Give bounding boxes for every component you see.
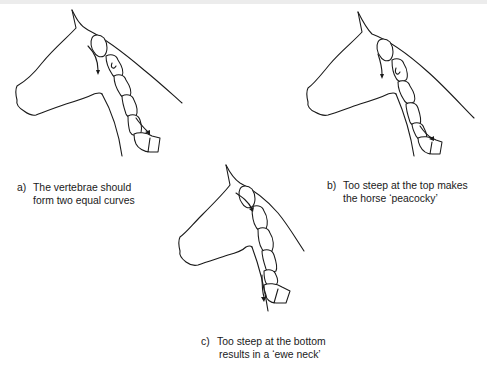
- caption-b: b)Too steep at the top makes the horse ‘…: [327, 180, 468, 205]
- caption-text-line1: Too steep at the bottom: [217, 336, 326, 347]
- caption-label: c): [201, 336, 217, 349]
- caption-text-line2: results in a ‘ewe neck’: [201, 349, 326, 362]
- caption-c: c)Too steep at the bottom results in a ‘…: [201, 336, 326, 361]
- arrowhead-top: [96, 70, 100, 75]
- horse-neck-drawing-a: [14, 8, 189, 158]
- caption-text-line1: The vertebrae should: [33, 182, 131, 193]
- horse-head-outline: [179, 165, 252, 265]
- horse-head-outline: [307, 12, 396, 115]
- caption-text-line2: form two equal curves: [17, 195, 135, 208]
- caption-text-line1: Too steep at the top makes: [343, 180, 468, 191]
- horse-throat-line: [102, 94, 122, 156]
- caption-a: a)The vertebrae should form two equal cu…: [17, 182, 135, 207]
- caption-label: a): [17, 182, 33, 195]
- horse-neck-drawing-c: [178, 163, 318, 313]
- horse-ears-crest: [358, 12, 474, 118]
- horse-neck-drawing-b: [302, 8, 482, 158]
- top-border-bar: [0, 0, 487, 4]
- arrowhead-bottom: [261, 297, 266, 302]
- horse-head-outline: [16, 10, 102, 115]
- caption-text-line2: the horse ‘peacocky’: [327, 193, 468, 206]
- caption-label: b): [327, 180, 343, 193]
- vertebrae-chain: [239, 186, 290, 303]
- arrowhead-top: [380, 74, 384, 79]
